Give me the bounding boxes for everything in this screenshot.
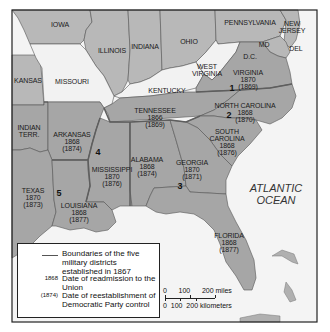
label-texas: TEXAS [22,187,45,194]
boundary-line-icon [42,255,58,257]
label-indian-terr-1: INDIAN [17,124,40,131]
scale-tick [215,295,216,298]
legend-text-boundaries: Boundaries of the five military district… [62,249,158,276]
ocean-label-1: ATLANTIC [249,182,302,194]
label-mississippi-readmit: 1870 [104,173,119,180]
label-indiana: INDIANA [131,43,159,50]
label-mississippi: MISSISSIPPI [92,166,133,173]
label-dc: D.C. [243,53,257,60]
label-delaware: DEL [289,45,303,52]
label-tennessee-readmit: 1866 [147,114,162,121]
label-louisiana-readmit: 1868 [71,209,86,216]
district-1: 1 [229,83,234,93]
label-new-jersey-1: NEW [284,20,301,27]
label-texas-readmit: 1870 [25,194,40,201]
legend-row-boundaries: Boundaries of the five military district… [18,249,159,276]
label-alabama-readmit: 1868 [139,163,154,170]
legend-row-readmission: 1868 Date of readmission to the Union [18,274,159,292]
legend-row-democratic: (1874) Date of reestablishment of Democr… [18,291,159,309]
district-3: 3 [177,181,182,191]
label-ohio: OHIO [180,38,198,45]
label-alabama-dem: (1874) [137,170,157,178]
label-georgia-readmit: 1870 [184,166,199,173]
label-maryland: MD [259,41,270,48]
label-west-virginia-1: WEST [197,63,218,70]
label-pennsylvania: PENNSYLVANIA [224,19,276,26]
label-kentucky: KENTUCKY [148,87,186,94]
legend-text-democratic: Date of reestablishment of Democratic Pa… [62,291,158,309]
label-iowa: IOWA [51,21,69,28]
label-south-carolina-dem: (1876) [217,149,237,157]
label-louisiana-dem: (1877) [69,216,89,224]
label-arkansas: ARKANSAS [53,131,91,138]
label-arkansas-dem: (1874) [62,145,82,153]
label-missouri: MISSOURI [55,78,89,85]
label-tennessee: TENNESSEE [134,107,176,114]
label-florida: FLORIDA [214,232,244,239]
label-north-carolina-dem: (1870) [235,116,255,124]
scale-tick [196,298,197,301]
label-west-virginia-2: VIRGINIA [192,70,222,77]
label-north-carolina-readmit: 1868 [237,109,252,116]
label-illinois: ILLINOIS [98,47,126,54]
scale-tick [190,295,191,298]
label-florida-readmit: 1868 [221,239,236,246]
label-south-carolina-2: CAROLINA [210,135,245,142]
scale-kilometers: 0 100 200 kilometers [163,302,232,309]
scale-bar: 0 100 200 miles 0 100 200 kilometers [163,287,243,317]
label-florida-dem: (1877) [219,246,239,254]
district-2: 2 [226,110,231,120]
label-virginia-dem: (1869) [238,83,258,91]
legend-key-line [18,249,62,258]
label-kansas: KANSAS [14,77,42,84]
label-alabama: ALABAMA [131,156,164,163]
scale-tick [165,295,166,301]
label-north-carolina: NORTH CAROLINA [214,102,276,109]
label-texas-dem: (1873) [23,201,43,209]
label-tennessee-dem: (1869) [145,121,165,129]
scale-line [165,298,215,299]
label-virginia-readmit: 1870 [240,76,255,83]
label-virginia: VIRGINIA [233,69,263,76]
scale-miles: 0 100 200 miles [163,287,232,294]
map-legend: Boundaries of the five military district… [17,243,160,318]
legend-key-democratic: (1874) [18,291,62,300]
label-mississippi-dem: (1876) [102,180,122,188]
district-4: 4 [95,147,100,157]
label-south-carolina-readmit: 1868 [219,142,234,149]
legend-key-readmission: 1868 [18,274,62,283]
label-indian-terr-2: TERR. [19,131,40,138]
district-5: 5 [56,188,61,198]
ocean-label-2: OCEAN [256,194,295,206]
scale-tick [180,298,181,301]
label-louisiana: LOUISIANA [61,202,98,209]
label-south-carolina-1: SOUTH [215,128,239,135]
legend-text-readmission: Date of readmission to the Union [62,274,159,292]
label-georgia: GEORGIA [176,159,208,166]
label-new-jersey-2: JERSEY [279,27,306,34]
label-arkansas-readmit: 1868 [64,138,79,145]
label-georgia-dem: (1871) [182,173,202,181]
